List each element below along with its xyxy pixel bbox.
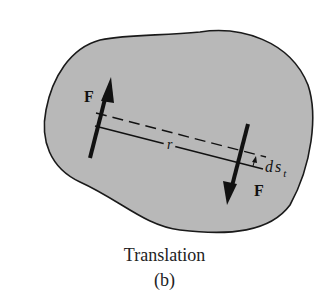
figure-caption: Translation xyxy=(0,245,329,266)
figure-sublabel: (b) xyxy=(0,270,329,291)
rigid-body-outline xyxy=(44,31,312,233)
radius-label: r xyxy=(167,137,173,152)
force-label-left: F xyxy=(84,88,94,105)
force-label-right: F xyxy=(254,182,264,199)
